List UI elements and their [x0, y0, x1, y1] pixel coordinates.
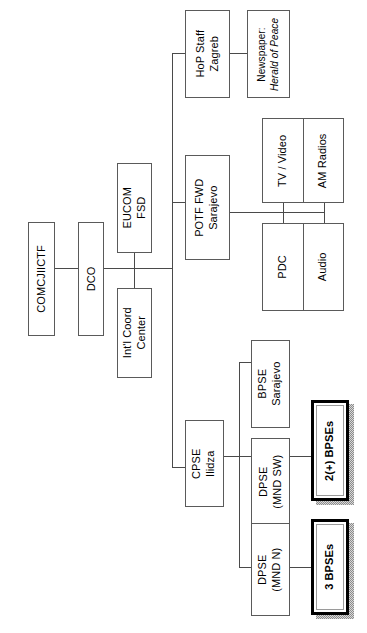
node-dpse-mnd-n-label: DPSE (MND N): [257, 547, 285, 591]
connector-cpse-subbus: [224, 456, 240, 457]
node-dpse-mnd-sw[interactable]: DPSE (MND SW): [251, 438, 290, 526]
node-hop-staff-zagreb[interactable]: HoP Staff Zagreb: [185, 10, 230, 98]
node-dpse-mnd-sw-line2: (MND SW): [271, 455, 285, 509]
node-intl-coord-center-label: Int'l Coord Center: [121, 308, 149, 359]
node-eucom-fsd[interactable]: EUCOM FSD: [117, 163, 152, 253]
connector-potf-media-bus: [230, 212, 324, 213]
node-potf-fwd-sarajevo[interactable]: POTF FWD Sarajevo: [185, 155, 230, 260]
node-eucom-fsd-line2: FSD: [135, 187, 149, 228]
node-newspaper[interactable]: Newspaper: Herald of Peace: [247, 10, 290, 98]
node-dpse-mnd-n-line1: DPSE: [257, 547, 271, 591]
node-tv-video-label: TV / Video: [276, 134, 290, 186]
connector-trunk-cpse: [172, 467, 185, 468]
node-cpse-ilidza-line2: Ilidza: [204, 448, 218, 478]
node-eucom-fsd-line1: EUCOM: [121, 187, 135, 228]
node-hop-staff-zagreb-line1: HoP Staff: [194, 30, 208, 78]
node-dco-label: DCO: [84, 267, 98, 292]
node-tv-video[interactable]: TV / Video: [262, 118, 304, 203]
node-comcjiictf[interactable]: COMCJIICTF: [28, 222, 55, 336]
node-intl-coord-center[interactable]: Int'l Coord Center: [117, 288, 152, 378]
connector-audio-dropper: [324, 212, 325, 223]
node-dpse-mnd-sw-line1: DPSE: [257, 455, 271, 509]
node-bpse-sarajevo-line2: Sarajevo: [271, 362, 285, 406]
node-hop-staff-zagreb-label: HoP Staff Zagreb: [194, 30, 222, 78]
node-newspaper-line2: Herald of Peace: [269, 17, 282, 90]
node-comcjiictf-label: COMCJIICTF: [35, 245, 49, 313]
node-cpse-ilidza[interactable]: CPSE Ilidza: [185, 420, 224, 507]
connector-trunk-potf: [172, 202, 185, 203]
connector-dco-trunk: [104, 268, 173, 269]
node-potf-fwd-sarajevo-line1: POTF FWD: [194, 178, 208, 236]
node-cpse-ilidza-line1: CPSE: [191, 448, 205, 478]
node-newspaper-label: Newspaper: Herald of Peace: [256, 17, 281, 90]
connector-pdc-dropper: [283, 212, 284, 223]
sub-bus-line: [239, 362, 240, 568]
node-cpse-ilidza-label: CPSE Ilidza: [191, 448, 219, 478]
node-dco[interactable]: DCO: [78, 222, 104, 336]
node-audio-label: Audio: [317, 253, 331, 282]
node-hop-staff-zagreb-line2: Zagreb: [208, 30, 222, 78]
org-chart-canvas: COMCJIICTF DCO EUCOM FSD Int'l Coord Cen…: [0, 0, 367, 633]
node-pdc[interactable]: PDC: [262, 223, 304, 311]
node-am-radios[interactable]: AM Radios: [303, 118, 344, 203]
node-dpse-mnd-sw-label: DPSE (MND SW): [257, 455, 285, 509]
node-dpse-mnd-n-line2: (MND N): [271, 547, 285, 591]
node-bpses-2plus[interactable]: 2(+) BPSEs: [311, 400, 349, 501]
node-potf-fwd-sarajevo-line2: Sarajevo: [208, 178, 222, 236]
connector-hop-newspaper: [230, 53, 247, 54]
main-trunk-line: [172, 53, 173, 468]
node-potf-fwd-sarajevo-label: POTF FWD Sarajevo: [194, 178, 222, 236]
node-dpse-mnd-n[interactable]: DPSE (MND N): [251, 523, 290, 616]
connector-trunk-hop: [172, 53, 185, 54]
node-audio[interactable]: Audio: [303, 223, 344, 311]
connector-subbus-bpse-sarajevo: [239, 362, 251, 363]
node-bpse-sarajevo-label: BPSE Sarajevo: [257, 362, 285, 406]
connector-comcjiictf-dco: [55, 268, 80, 269]
node-bpse-sarajevo-line1: BPSE: [257, 362, 271, 406]
node-bpses-3-label: 3 BPSEs: [323, 544, 337, 590]
connector-dpse-n-bpses: [289, 567, 311, 568]
connector-subbus-dpse-sw: [239, 456, 251, 457]
node-newspaper-line1: Newspaper:: [256, 17, 269, 90]
node-intl-coord-center-line1: Int'l Coord: [121, 308, 135, 359]
connector-dpse-sw-bpses: [289, 456, 311, 457]
connector-eucom-stub: [134, 253, 135, 269]
connector-intl-coord-stub: [134, 268, 135, 288]
node-pdc-label: PDC: [276, 255, 290, 279]
connector-subbus-dpse-n: [239, 567, 251, 568]
node-bpses-3[interactable]: 3 BPSEs: [311, 519, 349, 615]
node-intl-coord-center-line2: Center: [135, 308, 149, 359]
node-bpses-2plus-label: 2(+) BPSEs: [323, 421, 337, 481]
node-bpse-sarajevo[interactable]: BPSE Sarajevo: [251, 340, 290, 428]
node-eucom-fsd-label: EUCOM FSD: [121, 187, 149, 228]
node-am-radios-label: AM Radios: [317, 133, 331, 188]
